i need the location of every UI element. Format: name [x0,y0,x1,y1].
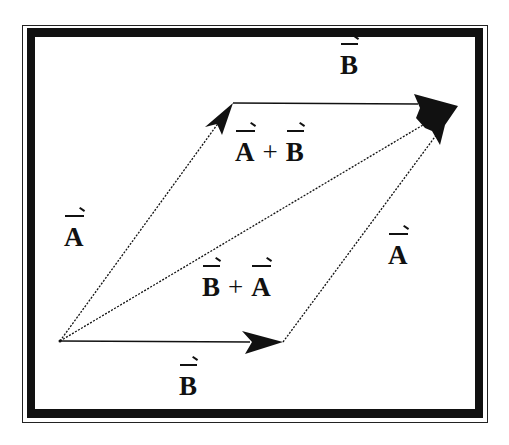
vector-symbol-b: B [179,361,197,400]
vector-symbol-b: B [340,40,358,79]
plus-sign: + [263,127,278,166]
plus-sign: + [228,262,243,301]
far-vertex-arrowhead [414,94,458,145]
vector-symbol-a: A [251,262,271,301]
vector-b-bottom-line [60,341,250,342]
label-sum-ab: A+B [235,127,304,166]
label-sum-ba: B+A [202,262,271,301]
vector-symbol-b: B [286,127,304,166]
label-left-a: A [64,212,84,251]
vector-symbol-a: A [235,127,255,166]
vector-symbol-a: A [388,230,408,269]
vector-a-left-arrowhead [205,103,233,135]
label-top-b: B [340,40,358,79]
vector-symbol-a: A [64,212,84,251]
vector-a-left-line [60,118,222,341]
label-right-a: A [388,230,408,269]
vector-b-top-line [233,103,418,104]
origin-point [59,340,62,343]
label-bottom-b: B [179,361,197,400]
vector-symbol-b: B [202,262,220,301]
vector-addition-diagram: B A+B A A B+A B [0,0,509,445]
